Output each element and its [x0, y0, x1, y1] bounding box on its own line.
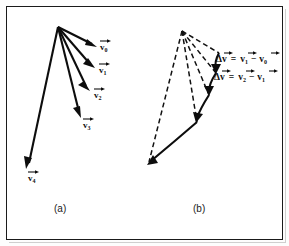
- equation-delta-v-second: Δv=v2−v1: [214, 69, 278, 83]
- svg-text:v1: v1: [99, 65, 107, 76]
- caption-panel-a: (a): [54, 203, 66, 214]
- eq1-sub0: 0: [264, 59, 267, 65]
- vector-label-v2: v2: [94, 87, 105, 101]
- vector-label-v4: v4: [28, 170, 39, 184]
- label-v2-sub: 2: [99, 95, 102, 101]
- label-v4-sub: 4: [33, 178, 36, 184]
- label-v1-sub: 1: [104, 70, 107, 76]
- vector-label-v1: v1: [99, 62, 110, 76]
- panel-a-group: v0 v1 v2: [24, 27, 111, 214]
- equation-delta-v-first: Δv=v1−v0: [216, 51, 280, 65]
- caption-panel-b: (b): [193, 203, 205, 214]
- svg-text:v0: v0: [100, 42, 108, 53]
- eq1-equals: =: [231, 54, 236, 64]
- dashed-vector-v3: [182, 31, 197, 122]
- svg-text:v4: v4: [28, 173, 36, 184]
- dashed-vector-v1: [182, 31, 216, 73]
- panel-b-group: Δv=v1−v0 Δv=v2−v1: [147, 31, 280, 214]
- figure-root: v0 v1 v2: [0, 0, 289, 246]
- label-v3-sub: 3: [88, 125, 91, 131]
- dashed-vector-v2: [182, 31, 209, 95]
- svg-text:Δv=v1−v0: Δv=v1−v0: [216, 54, 267, 65]
- eq1-minus: −: [251, 54, 256, 64]
- dashed-vector-v4: [149, 31, 182, 162]
- eq2-sub2: 2: [243, 77, 246, 83]
- label-v0-sub: 0: [105, 47, 108, 53]
- vector-label-v3: v3: [83, 117, 94, 131]
- eq2-minus: −: [249, 72, 254, 82]
- vector-v4: [24, 27, 58, 169]
- svg-text:Δv=v2−v1: Δv=v2−v1: [214, 72, 265, 83]
- eq2-sub1: 1: [262, 77, 265, 83]
- delta-v-arrow-2-3: [193, 95, 209, 123]
- vector-label-v0: v0: [100, 39, 111, 53]
- eq2-equals: =: [229, 72, 234, 82]
- eq1-sub1: 1: [245, 59, 248, 65]
- eq2-v: v: [220, 72, 225, 82]
- delta-v-arrow-3-4: [147, 122, 197, 165]
- eq1-v: v: [222, 54, 227, 64]
- vector-diagram-canvas: v0 v1 v2: [0, 0, 289, 246]
- dashed-vector-v0: [182, 31, 219, 53]
- svg-text:v3: v3: [83, 120, 91, 131]
- svg-text:v2: v2: [94, 90, 102, 101]
